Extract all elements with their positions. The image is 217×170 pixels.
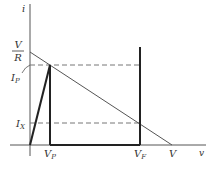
iv-diagram: i V R IP IX VP VF V v: [0, 0, 217, 170]
load-line: [30, 52, 172, 145]
vf-label: VF: [134, 148, 147, 161]
v-intercept-label: V: [169, 148, 178, 159]
rising-branch: [30, 65, 50, 145]
vp-label: VP: [44, 148, 56, 161]
v-over-r-denominator: R: [13, 52, 22, 63]
v-over-r-numerator: V: [14, 39, 23, 50]
ip-label: IP: [10, 72, 20, 85]
y-axis-label: i: [22, 3, 25, 14]
ip-pointer-arrow: [22, 65, 30, 73]
x-axis-label: v: [199, 148, 204, 158]
ix-label: IX: [15, 118, 26, 131]
